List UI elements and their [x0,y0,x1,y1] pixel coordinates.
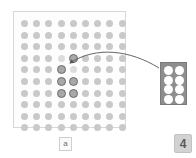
board-cell[interactable] [119,78,126,85]
board-cell[interactable] [70,113,77,120]
board-cell[interactable] [94,32,101,39]
board-cell-active[interactable] [69,54,78,63]
dot-grid-board[interactable] [13,11,126,128]
board-cell[interactable] [106,101,113,108]
board-cell[interactable] [33,66,40,73]
board-cell[interactable] [58,32,65,39]
board-cell[interactable] [94,78,101,85]
preview-cell [164,76,173,85]
board-cell[interactable] [119,43,126,50]
board-cell[interactable] [45,55,52,62]
board-cell[interactable] [94,66,101,73]
board-cell[interactable] [21,43,28,50]
board-cell[interactable] [33,20,40,27]
board-cell[interactable] [94,43,101,50]
board-cell[interactable] [119,113,126,120]
board-cell[interactable] [82,43,89,50]
board-cell[interactable] [106,32,113,39]
board-cell[interactable] [58,20,65,27]
board-cell[interactable] [21,101,28,108]
board-cell[interactable] [70,32,77,39]
board-cell[interactable] [70,124,77,131]
board-cell[interactable] [45,101,52,108]
board-cell[interactable] [119,66,126,73]
board-cell[interactable] [82,78,89,85]
board-cell[interactable] [33,32,40,39]
board-cell[interactable] [119,101,126,108]
board-cell[interactable] [82,90,89,97]
board-cell[interactable] [106,55,113,62]
board-cell-active[interactable] [57,65,66,74]
board-cell[interactable] [106,20,113,27]
board-cell[interactable] [33,78,40,85]
board-cell-ghost[interactable] [70,66,77,73]
board-cell[interactable] [70,20,77,27]
board-cell[interactable] [33,55,40,62]
board-cell[interactable] [21,55,28,62]
preview-grid [161,63,186,104]
board-cell[interactable] [94,90,101,97]
board-cell[interactable] [21,90,28,97]
board-cell[interactable] [119,55,126,62]
board-cell[interactable] [45,113,52,120]
board-cell[interactable] [33,124,40,131]
board-cell[interactable] [82,113,89,120]
board-cell-active[interactable] [69,89,78,98]
board-cell-active[interactable] [57,89,66,98]
board-cell[interactable] [45,20,52,27]
board-cell[interactable] [82,55,89,62]
board-cell[interactable] [119,32,126,39]
board-cell[interactable] [82,101,89,108]
board-cell[interactable] [106,113,113,120]
board-cell[interactable] [45,32,52,39]
board-cell[interactable] [70,43,77,50]
board-cell[interactable] [119,124,126,131]
board-cell[interactable] [58,124,65,131]
count-badge[interactable]: 4 [174,134,192,153]
board-cell[interactable] [45,78,52,85]
board-cell[interactable] [106,66,113,73]
board-cell[interactable] [21,124,28,131]
board-cell[interactable] [33,90,40,97]
board-cell[interactable] [33,43,40,50]
board-cell-active[interactable] [69,77,78,86]
board-cell[interactable] [58,113,65,120]
board-cell[interactable] [94,55,101,62]
next-piece-preview[interactable] [160,62,187,105]
board-cell[interactable] [58,43,65,50]
board-cell[interactable] [106,78,113,85]
board-cell[interactable] [21,113,28,120]
board-cell[interactable] [45,43,52,50]
board-cell[interactable] [45,124,52,131]
board-cell[interactable] [82,20,89,27]
board-cell[interactable] [21,20,28,27]
board-cell[interactable] [106,124,113,131]
board-cell-ghost[interactable] [58,55,65,62]
board-cell[interactable] [94,101,101,108]
board-cell[interactable] [58,101,65,108]
preview-cell [175,66,184,75]
preview-cell [175,76,184,85]
board-cell[interactable] [82,124,89,131]
board-cell[interactable] [94,124,101,131]
board-cell[interactable] [82,32,89,39]
board-grid [14,12,125,127]
board-cell[interactable] [21,78,28,85]
preview-cell [164,85,173,94]
board-cell[interactable] [21,32,28,39]
board-cell-active[interactable] [57,77,66,86]
board-cell[interactable] [82,66,89,73]
board-cell[interactable] [33,113,40,120]
board-cell[interactable] [45,90,52,97]
board-cell[interactable] [119,20,126,27]
board-cell[interactable] [94,113,101,120]
preview-cell [175,85,184,94]
board-cell[interactable] [21,66,28,73]
board-cell[interactable] [106,43,113,50]
board-cell[interactable] [33,101,40,108]
board-cell[interactable] [45,66,52,73]
board-cell[interactable] [70,101,77,108]
board-cell[interactable] [119,90,126,97]
board-cell[interactable] [94,20,101,27]
board-cell[interactable] [106,90,113,97]
